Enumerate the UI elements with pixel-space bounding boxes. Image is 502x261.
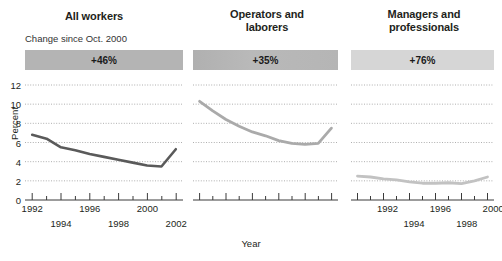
change-banner-value: +46%	[91, 55, 117, 66]
panel-title-managers-and-professionals: Managers and professionals	[346, 8, 502, 34]
panel-all-workers: All workers Change since Oct. 2000 +46% …	[0, 0, 188, 261]
panel-operators-and-laborers: Operators and laborers +35%	[188, 0, 346, 261]
y-axis-title: Percent	[9, 94, 20, 154]
x-axis-ticks	[32, 193, 176, 200]
data-line-managers-and-professionals	[358, 176, 488, 184]
gridlines	[193, 85, 338, 181]
plot-area-managers-and-professionals	[351, 85, 494, 200]
multi-panel-line-chart: All workers Change since Oct. 2000 +46% …	[0, 0, 502, 261]
x-axis-ticks	[358, 193, 488, 200]
data-line-operators-and-laborers	[200, 101, 332, 144]
change-banner-managers-and-professionals: +76%	[351, 50, 494, 70]
change-since-label: Change since Oct. 2000	[25, 33, 127, 44]
x-axis-ticks	[200, 193, 332, 200]
plot-svg	[351, 85, 494, 200]
x-axis-labels-all-workers: 1992 1994 1996 1998 2000 2002	[25, 203, 183, 237]
panel-title-operators-and-laborers: Operators and laborers	[188, 8, 346, 34]
panel-title-all-workers: All workers	[0, 10, 188, 23]
plot-svg	[25, 85, 183, 200]
plot-area-operators-and-laborers	[193, 85, 338, 200]
plot-area-all-workers	[25, 85, 183, 200]
panel-managers-and-professionals: Managers and professionals +76%	[346, 0, 502, 261]
change-banner-operators-and-laborers: +35%	[193, 50, 338, 70]
change-banner-value: +35%	[253, 55, 279, 66]
x-axis-title: Year	[0, 238, 502, 249]
plot-svg	[193, 85, 338, 200]
gridlines	[351, 85, 494, 181]
change-banner-all-workers: +46%	[25, 50, 183, 70]
change-banner-value: +76%	[410, 55, 436, 66]
